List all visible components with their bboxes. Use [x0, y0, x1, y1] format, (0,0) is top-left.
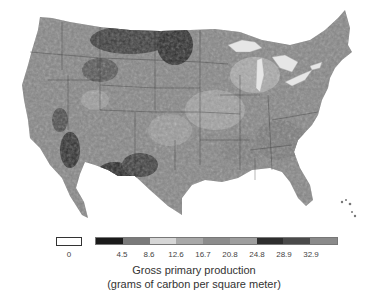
legend-tick: 24.8: [249, 250, 265, 259]
legend-tick: 4.5: [116, 250, 127, 259]
legend-swatch-3: [150, 238, 177, 244]
legend-swatch-4: [176, 238, 203, 244]
legend-swatch-1: [96, 238, 123, 244]
legend-swatch-6: [230, 238, 257, 244]
legend-subtitle: (grams of carbon per square meter): [0, 278, 388, 290]
legend-tick: 20.8: [222, 250, 238, 259]
legend-swatch-7: [257, 238, 284, 244]
legend-swatch-9: [310, 238, 337, 244]
legend-color-scale: [95, 237, 338, 245]
legend-tick-zero: 0: [67, 250, 71, 259]
legend-tick: 8.6: [143, 250, 154, 259]
legend-tick: 12.6: [168, 250, 184, 259]
us-gpp-map: [0, 0, 388, 232]
legend-title: Gross primary production: [0, 264, 388, 276]
legend-tick: 28.9: [276, 250, 292, 259]
bahamas-islands: [341, 199, 356, 217]
legend-tick: 32.9: [303, 250, 319, 259]
legend-tick: 16.7: [195, 250, 211, 259]
legend-zero-swatch: [56, 237, 82, 246]
legend-swatch-2: [123, 238, 150, 244]
legend-swatch-5: [203, 238, 230, 244]
legend-swatch-8: [283, 238, 310, 244]
